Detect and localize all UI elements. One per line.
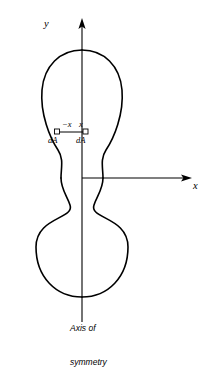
peanut-outline-upper [82, 50, 122, 178]
peanut-outline-lower-left [36, 178, 82, 297]
dA-left-marker [55, 129, 60, 134]
dA-right-marker [83, 129, 88, 134]
axis-of-symmetry-line1: Axis of [70, 323, 107, 334]
peanut-outline-lower-right [82, 178, 128, 297]
positive-x-label: x [79, 120, 83, 129]
y-axis-label: y [44, 18, 49, 29]
axis-of-symmetry-line2: symmetry [70, 357, 107, 368]
peanut-outline-upper-left [42, 50, 82, 178]
negative-x-label: −x [62, 120, 72, 129]
dA-right-label: dA [76, 136, 85, 145]
axis-of-symmetry-caption: Axis of symmetry [70, 300, 107, 371]
x-axis-label: x [193, 180, 198, 191]
dA-left-label: dA [48, 136, 57, 145]
